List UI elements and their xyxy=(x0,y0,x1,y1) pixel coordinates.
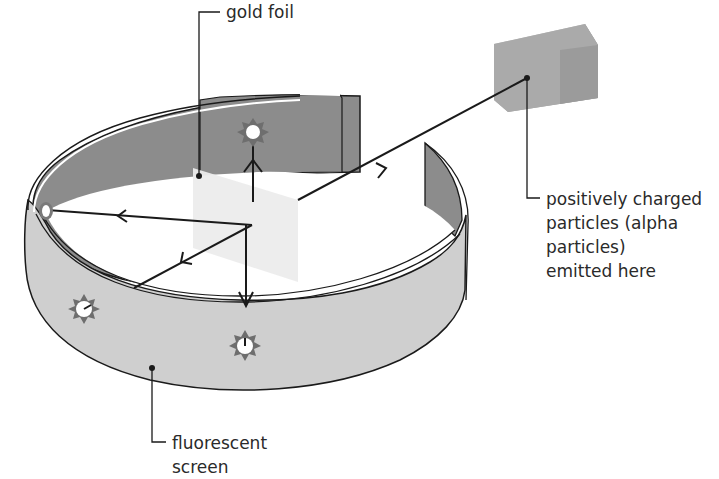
alpha-source-block xyxy=(494,24,598,112)
screen-label-line-1: fluorescent xyxy=(172,432,267,454)
flash-left xyxy=(39,202,53,220)
source-label-line-3: particles) xyxy=(546,236,626,258)
source-pointer-dot xyxy=(524,75,530,81)
gold-foil-label: gold foil xyxy=(226,1,294,23)
screen-pointer-dot xyxy=(149,365,155,371)
source-label-line-4: emitted here xyxy=(546,260,656,282)
gold-foil-pointer-dot xyxy=(196,173,202,179)
source-label-line-2: particles (alpha xyxy=(546,212,678,234)
screen-label-line-2: screen xyxy=(172,456,229,478)
gold-foil-diagram: gold foil positively charged particles (… xyxy=(0,0,719,479)
source-label-line-1: positively charged xyxy=(546,188,702,210)
